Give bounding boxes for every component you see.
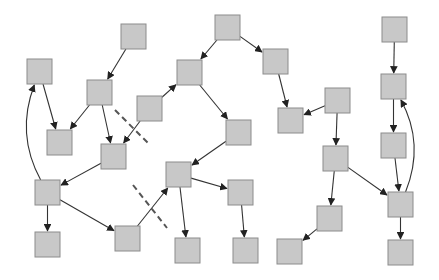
edge-arrow (192, 141, 226, 165)
graph-node-n26 (388, 192, 413, 217)
edge-arrow (303, 229, 317, 241)
graph-node-n27 (388, 240, 413, 265)
graph-node-n6 (137, 96, 162, 121)
edge-arrow (304, 106, 325, 115)
graph-node-n5 (101, 144, 126, 169)
graph-node-n18 (278, 108, 303, 133)
edge-arrow (60, 200, 114, 231)
edge-arrow (394, 42, 395, 73)
edge-arrow (70, 105, 89, 129)
edge-arrow (26, 85, 40, 180)
edge-arrow (108, 49, 126, 79)
edge-arrow (200, 85, 228, 119)
graph-node-n7 (177, 60, 202, 85)
graph-node-n25 (381, 133, 406, 158)
dashed-cut-line (133, 185, 167, 228)
edge-arrow (201, 40, 217, 59)
graph-node-n8 (35, 180, 60, 205)
graph-node-n19 (325, 88, 350, 113)
graph-node-n22 (277, 239, 302, 264)
graph-node-n24 (381, 74, 406, 99)
edge-arrow (137, 188, 167, 226)
graph-svg (0, 0, 439, 280)
graph-node-n10 (115, 226, 140, 251)
edge-arrow (336, 113, 337, 145)
edge-arrow (102, 105, 110, 143)
edge-arrow (162, 85, 176, 98)
graph-node-n13 (226, 120, 251, 145)
graph-node-n1 (121, 24, 146, 49)
edge-arrow (279, 74, 287, 107)
edge-arrow (61, 163, 101, 185)
graph-node-n16 (215, 15, 240, 40)
graph-node-n11 (166, 162, 191, 187)
graph-node-n3 (87, 80, 112, 105)
edge-arrow (331, 171, 334, 205)
edge-arrow (240, 36, 262, 52)
graph-node-n21 (317, 206, 342, 231)
graph-node-n2 (27, 59, 52, 84)
edge-arrow (348, 167, 387, 195)
edge-arrow (242, 205, 245, 237)
graph-node-n23 (382, 17, 407, 42)
graph-node-n14 (228, 180, 253, 205)
edge-arrow (395, 158, 399, 191)
graph-diagram (0, 0, 439, 280)
edge-arrow (191, 178, 227, 188)
graph-node-n15 (233, 238, 258, 263)
graph-node-n20 (323, 146, 348, 171)
nodes-layer (27, 15, 413, 265)
edge-arrow (43, 84, 56, 129)
graph-node-n17 (263, 49, 288, 74)
graph-node-n12 (175, 238, 200, 263)
graph-node-n9 (35, 232, 60, 257)
edges-layer (26, 36, 414, 240)
graph-node-n4 (47, 130, 72, 155)
edge-arrow (180, 187, 186, 237)
